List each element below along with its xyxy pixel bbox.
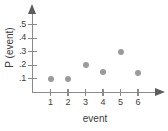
x-axis-tick-label: 2 (61, 98, 75, 107)
x-axis-tick (102, 89, 103, 96)
x-axis-tick (67, 89, 68, 96)
y-axis-arrowhead-icon (28, 4, 36, 14)
data-point (48, 76, 54, 82)
x-axis-tick (137, 89, 138, 96)
x-axis-tick-label: 6 (131, 98, 145, 107)
data-point (135, 70, 141, 76)
x-axis-tick-label: 3 (79, 98, 93, 107)
x-axis-tick-label: 5 (114, 98, 128, 107)
data-point (65, 76, 71, 82)
x-axis-tick-label: 4 (96, 98, 110, 107)
y-axis-tick (28, 65, 37, 66)
x-axis-tick (50, 89, 51, 96)
y-axis-tick (28, 51, 37, 52)
data-point (118, 49, 124, 55)
y-axis-tick (28, 78, 37, 79)
data-point (100, 69, 106, 75)
x-axis-arrowhead-icon (155, 88, 165, 96)
data-point (83, 62, 89, 68)
x-axis-title: event (33, 113, 157, 124)
x-axis-tick (120, 89, 121, 96)
scatter-plot-figure: .1.2.3.4.5 123456 event P (event) (0, 0, 168, 131)
y-axis-title: P (event) (4, 15, 15, 81)
x-axis-tick (85, 89, 86, 96)
y-axis-tick (28, 24, 37, 25)
x-axis-tick-label: 1 (44, 98, 58, 107)
y-axis-tick (28, 38, 37, 39)
